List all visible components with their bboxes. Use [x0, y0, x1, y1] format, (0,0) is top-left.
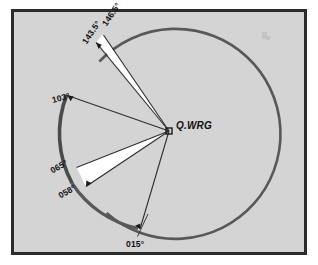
wedge-146-143: [97, 35, 169, 132]
bearing-line-146-5: [104, 35, 170, 131]
circle-arc-lower: [72, 184, 138, 229]
bearing-arrowheads: [68, 43, 141, 230]
diagram-canvas: [0, 0, 318, 265]
bearing-label-015: 015°: [126, 239, 144, 249]
circle-arc-main: [99, 29, 280, 239]
bearing-diagram-figure: 146.5° 143.5° 103° 065° 058° 015° Q.WRG: [0, 0, 318, 265]
station-label: Q.WRG: [176, 120, 212, 131]
faint-artifact-mark: [262, 32, 270, 40]
